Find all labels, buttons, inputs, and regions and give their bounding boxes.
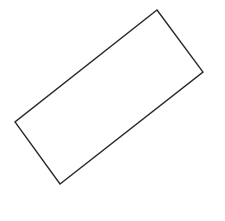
rotated-rectangle — [15, 10, 203, 184]
diagram-canvas — [0, 0, 225, 221]
